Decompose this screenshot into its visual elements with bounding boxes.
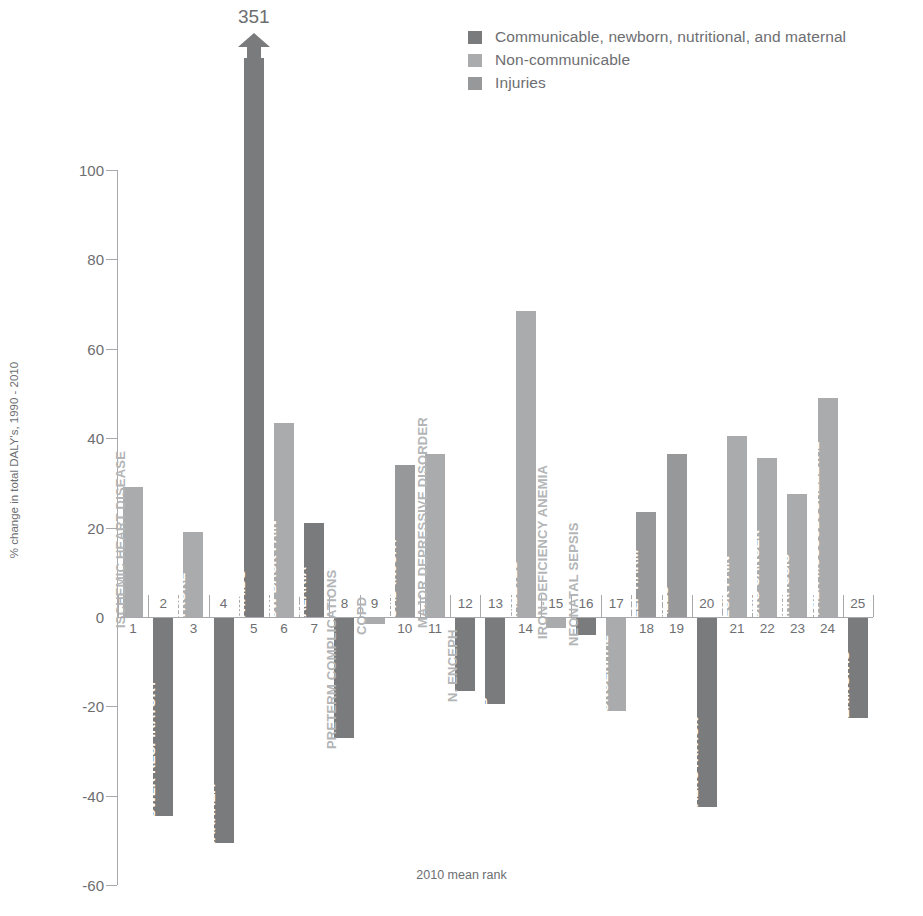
bar-category-label: LUNG CANCER	[747, 530, 762, 628]
rank-tick	[843, 595, 844, 617]
bar-series: ISCHEMIC HEART DISEASE1LOWER RESPIRATORY…	[118, 0, 908, 916]
rank-tick	[480, 595, 481, 617]
y-tick-label: 80	[58, 251, 104, 268]
rank-number: 20	[694, 596, 720, 611]
bar-category-label: NEONATAL SEPSIS	[566, 522, 581, 646]
bar-category-label: MALARIA	[294, 567, 309, 628]
plot-area: 100806040200-20-40-60 % change in total …	[0, 0, 923, 916]
bar-category-label: OTHER MUSCULOSKELETAL	[807, 441, 822, 628]
rank-number: 24	[815, 621, 841, 636]
bar-category-label: IRON-DEFICIENCY ANEMIA	[535, 465, 550, 639]
bar-category-label: MENINGITIS	[837, 651, 852, 729]
bar-category-label: DIARRHEA	[203, 784, 218, 854]
zero-baseline	[118, 617, 873, 618]
y-tick-mark	[106, 170, 117, 171]
y-tick-label: 100	[58, 162, 104, 179]
y-tick-label: 20	[58, 519, 104, 536]
y-tick-mark	[106, 259, 117, 260]
rank-number: 15	[543, 596, 569, 611]
bar-category-label: TB	[475, 697, 490, 715]
y-tick-label: 0	[58, 609, 104, 626]
rank-number: 5	[241, 621, 267, 636]
rank-number: 19	[664, 621, 690, 636]
rank-number: 3	[180, 621, 206, 636]
rank-tick	[873, 595, 874, 617]
y-axis: 100806040200-20-40-60	[58, 0, 104, 916]
rank-number: 25	[845, 596, 871, 611]
chart-root: Communicable, newborn, nutritional, and …	[0, 0, 923, 916]
bar-category-label: MALNUTRITION	[686, 717, 701, 818]
rank-number: 1	[120, 621, 146, 636]
rank-number: 16	[573, 596, 599, 611]
rank-tick	[601, 595, 602, 617]
overflow-value-label: 351	[224, 6, 284, 28]
bar-category-label: LOWER RESPIRATORY	[143, 679, 158, 827]
overflow-arrow-icon	[237, 32, 271, 60]
bar-category-label: CONGENITAL	[596, 635, 611, 722]
rank-tick	[148, 595, 149, 617]
bar-category-label: ROAD INJURY	[384, 537, 399, 628]
bar-category-label: N. ENCEPH	[445, 629, 460, 702]
x-axis-title: 2010 mean rank	[0, 868, 923, 882]
bar	[485, 617, 505, 704]
bar-category-label: ISCHEMIC HEART DISEASE	[113, 451, 128, 628]
y-tick-label: -20	[58, 698, 104, 715]
y-tick-mark	[106, 796, 117, 797]
rank-tick	[209, 595, 210, 617]
rank-tick	[450, 595, 451, 617]
y-tick-label: -40	[58, 787, 104, 804]
y-tick-label: 40	[58, 430, 104, 447]
bar	[244, 58, 264, 617]
bar-category-label: STROKE	[173, 573, 188, 628]
y-tick-mark	[106, 349, 117, 350]
rank-tick	[118, 595, 119, 617]
y-tick-mark	[106, 438, 117, 439]
rank-tick	[692, 595, 693, 617]
rank-number: 12	[452, 596, 478, 611]
bar-category-label: MAJOR DEPRESSIVE DISORDER	[415, 417, 430, 628]
y-tick-mark	[106, 885, 117, 886]
y-tick-label: 60	[58, 340, 104, 357]
y-tick-mark	[106, 528, 117, 529]
bar-category-label: HIV/AIDS	[233, 570, 248, 628]
y-tick-mark	[106, 706, 117, 707]
y-axis-title: % change in total DALY's, 1990 - 2010	[8, 270, 20, 650]
rank-number: 10	[392, 621, 418, 636]
bar-category-label: LOW BACK PAIN	[264, 520, 279, 628]
